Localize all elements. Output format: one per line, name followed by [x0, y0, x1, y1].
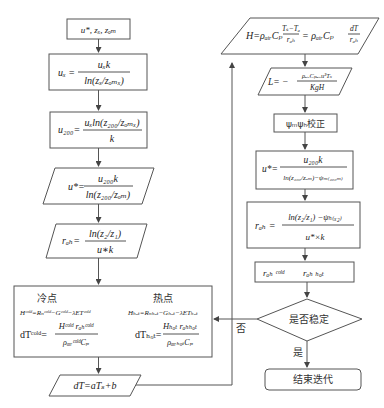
hot-dT-den: ρₐᵢᵣₕₒₜCₚ	[166, 338, 193, 347]
u200-num: uₓln(z₂₀₀/zₒₘₓ)	[84, 117, 140, 129]
ux-lhs: uₓ =	[58, 67, 75, 78]
ustar-lhs: u*=	[68, 181, 85, 192]
ustar2-lhs: u*=	[262, 164, 278, 174]
cold-dT-lhs: dTᶜᵒˡᵈ=	[20, 329, 47, 340]
u200-lhs: u₂₀₀=	[58, 124, 80, 135]
ustar2-num: u₂₀₀k	[304, 155, 324, 165]
H-frac1-num: Tₛ−Tₐ	[282, 24, 300, 33]
rah2-den: u*×k	[305, 232, 325, 242]
ustar-num: u₂₀₀k	[98, 173, 118, 184]
hot-point-title: 热点	[153, 292, 173, 304]
L-num: ρₐᵢᵣCₚₐᵢᵣu³Tₛ	[301, 72, 332, 79]
L-den: KgH	[309, 83, 325, 92]
cold-point-title: 冷点	[37, 292, 57, 304]
H-lhs: H=ρₐᵢᵣCₚ	[245, 30, 282, 41]
cold-dT-den: ρₐᵢᵣᶜᵒˡᵈCₚ	[62, 338, 90, 347]
hot-H-equation: Hₕₒₜ=Rₙₕₒₜ−Gₕₒₜ−λETₕₒₜ	[127, 309, 198, 317]
psi-correction-text: ψₘψₕ校正	[286, 118, 325, 129]
L-lhs: L= −	[267, 77, 288, 87]
rah-num: ln(z₂/z₁)	[89, 228, 122, 240]
rah2-num: ln(z₂/z₁) −ψₕ₍ₓ₂₎	[288, 212, 342, 222]
H-frac2-num: dT	[350, 24, 359, 33]
hot-dT-num: Hₕₒₜ rₐₕₕₒₜ	[162, 321, 198, 331]
ux-num: uₓk	[98, 59, 111, 70]
cold-dT-num: Hᶜᵒˡᵈ rₐₕᶜᵒˡᵈ	[58, 321, 94, 331]
ustar2-den: ln(z₂₀₀/zₒₘ)−ψₘ₍₂₀₀ₘ₎	[283, 174, 343, 182]
H-frac2-den: rₐₕ	[350, 35, 358, 44]
hot-dT-lhs: dTₕₒₜ=	[135, 329, 162, 340]
input-box-text: u*, zₓ, zₒₘ	[81, 25, 117, 35]
stability-decision-text: 是否稳定	[289, 313, 329, 325]
ustar-den: ln(z₂₀₀/zₒₘ)	[86, 189, 131, 201]
rah-cold: rₐₕ ᶜᵒˡᵈ	[263, 268, 285, 278]
flowchart: u*, zₓ, zₒₘ uₓ = uₓk ln(zₓ/zₒₘₓ) u₂₀₀= u…	[0, 0, 384, 408]
ux-den: ln(zₓ/zₒₘₓ)	[84, 75, 124, 87]
end-iteration-text: 结束迭代	[293, 373, 333, 385]
rah2-lhs: rₐₕ =	[255, 220, 275, 231]
H-frac1-den: rₐₕ	[287, 35, 295, 44]
H-mid: = ρₐᵢᵣCₚ	[302, 30, 334, 41]
rah-hot: rₐₕ ₕₒₜ	[303, 268, 325, 278]
u200-den: k	[110, 133, 115, 144]
cold-H-equation: Hᶜᵒˡᵈ=Rₙᶜᵒˡᵈ−Gᶜᵒˡᵈ−λETᶜᵒˡᵈ	[19, 309, 91, 317]
rah-den: u∗k	[97, 244, 114, 255]
dT-linear-text: dT=aTₛ+b	[74, 380, 117, 391]
no-label: 否	[236, 323, 246, 334]
yes-label: 是	[293, 347, 303, 358]
rah-lhs: rₐₕ=	[62, 235, 80, 246]
